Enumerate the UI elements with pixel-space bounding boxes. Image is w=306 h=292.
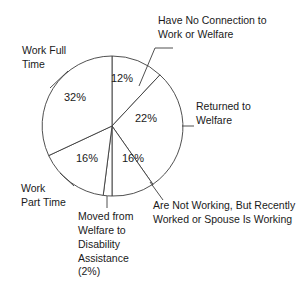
pie-value-label-work-part-time: 16% [76, 152, 98, 164]
pie-callout-returned-to-welfare: Returned to Welfare [196, 100, 251, 128]
leader-line-not-working-recently-worked [150, 182, 163, 200]
pie-callout-not-working-recently-worked: Are Not Working, But Recently Worked or … [153, 199, 295, 227]
pie-callout-no-connection: Have No Connection to Work or Welfare [158, 14, 267, 42]
pie-value-label-no-connection: 12% [111, 72, 133, 84]
pie-callout-disability-assistance: Moved from Welfare to Disability Assista… [78, 210, 133, 279]
pie-chart-figure: 12% 22% 16% 16% 32% Have No Connection t… [0, 0, 306, 292]
pie-callout-work-full-time: Work Full Time [22, 44, 66, 72]
pie-value-label-not-working-recently-worked: 16% [122, 152, 144, 164]
pie-callout-work-part-time: Work Part Time [21, 182, 66, 210]
pie-value-label-work-full-time: 32% [64, 91, 86, 103]
pie-value-label-returned-to-welfare: 22% [135, 112, 157, 124]
